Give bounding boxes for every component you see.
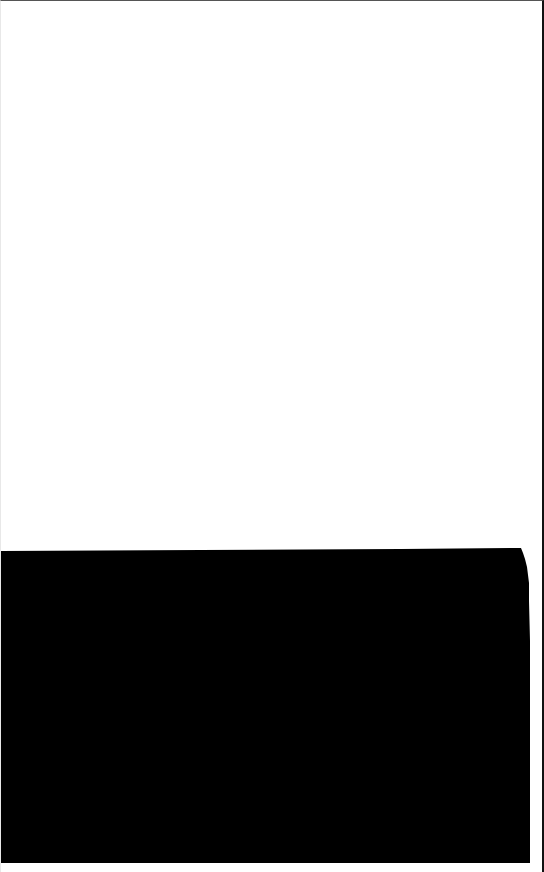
- page-frame: [0, 0, 544, 872]
- black-fill-area: [1, 1, 544, 872]
- black-fill-shape: [1, 1, 544, 872]
